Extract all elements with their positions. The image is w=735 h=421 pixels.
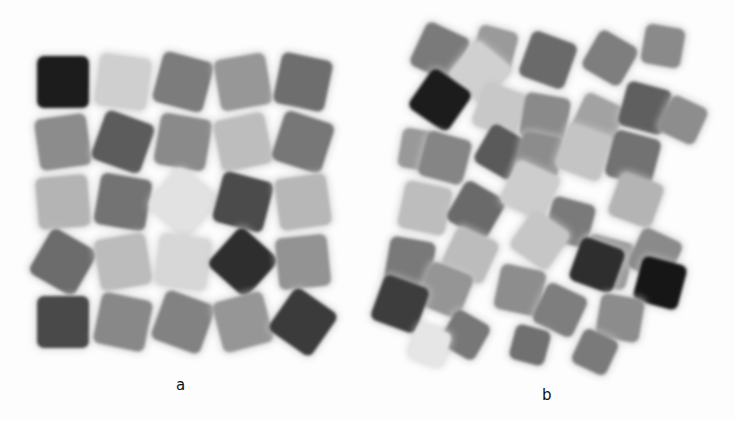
- cube: [34, 53, 92, 111]
- figure: a b: [0, 0, 735, 421]
- figure-canvas: [0, 0, 735, 421]
- cube: [209, 108, 278, 177]
- cube: [209, 48, 276, 115]
- cube: [263, 282, 344, 363]
- cube: [147, 46, 218, 117]
- panel-b-label: b: [542, 386, 552, 404]
- cube: [270, 169, 336, 235]
- cube: [86, 105, 160, 179]
- panel-a-label: a: [176, 376, 185, 394]
- cube: [89, 288, 158, 357]
- panel-a-grid: [23, 46, 343, 362]
- panel-b-random-packing: [365, 16, 713, 381]
- cube: [89, 228, 156, 295]
- cube: [23, 222, 102, 301]
- cube: [202, 221, 284, 303]
- cube: [636, 19, 689, 72]
- cube: [142, 161, 224, 243]
- cube: [30, 109, 96, 175]
- cube: [513, 25, 582, 94]
- cube: [271, 230, 335, 294]
- cube: [266, 105, 339, 178]
- cube: [34, 293, 92, 351]
- cube: [32, 171, 95, 234]
- cube: [269, 48, 338, 117]
- cube: [90, 49, 156, 115]
- cube: [146, 285, 220, 359]
- cube: [150, 229, 216, 295]
